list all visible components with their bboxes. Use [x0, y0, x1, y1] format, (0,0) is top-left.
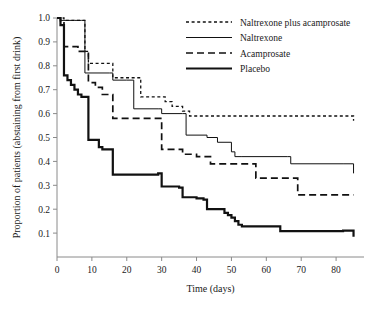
y-tick-label: 0.9	[38, 37, 50, 47]
legend-item-2[interactable]: Acamprosate	[240, 49, 290, 59]
y-tick-label: 0.6	[38, 109, 50, 119]
x-tick-label: 40	[192, 265, 202, 275]
legend-item-0[interactable]: Naltrexone plus acamprosate	[240, 18, 350, 28]
x-tick-label: 50	[227, 265, 237, 275]
x-tick-label: 70	[296, 265, 306, 275]
y-tick-label: 0.4	[38, 157, 50, 167]
x-tick-label: 10	[87, 265, 97, 275]
y-axis-label: Proportion of patients (abstaining from …	[11, 37, 23, 239]
y-tick-label: 1.0	[38, 13, 50, 23]
x-tick-label: 60	[262, 265, 272, 275]
legend-label-2: Acamprosate	[240, 49, 290, 59]
legend-label-1: Naltrexone	[240, 33, 282, 43]
curve-acamprosate	[57, 18, 354, 195]
x-tick-label: 0	[55, 265, 60, 275]
x-tick-label: 80	[331, 265, 341, 275]
x-tick-label: 30	[157, 265, 167, 275]
legend-item-1[interactable]: Naltrexone	[240, 33, 282, 43]
y-tick-label: 0.3	[38, 181, 50, 191]
y-tick-label: 0.2	[38, 205, 50, 215]
y-tick-label: 0.5	[38, 133, 50, 143]
legend-label-3: Placebo	[240, 64, 270, 74]
y-tick-label: 0.8	[38, 61, 50, 71]
y-tick-label: 0.7	[38, 85, 50, 95]
x-tick-label: 20	[122, 265, 132, 275]
y-tick-label: 0.1	[38, 229, 50, 239]
kaplan-meier-plot: 0.10.20.30.40.50.60.70.80.91.00102030405…	[0, 0, 380, 311]
survival-curve-figure: 0.10.20.30.40.50.60.70.80.91.00102030405…	[0, 0, 380, 311]
x-axis-label: Time (days)	[186, 283, 234, 295]
legend-item-3[interactable]: Placebo	[240, 64, 270, 74]
curve-placebo	[57, 18, 354, 237]
legend-label-0: Naltrexone plus acamprosate	[240, 18, 350, 28]
